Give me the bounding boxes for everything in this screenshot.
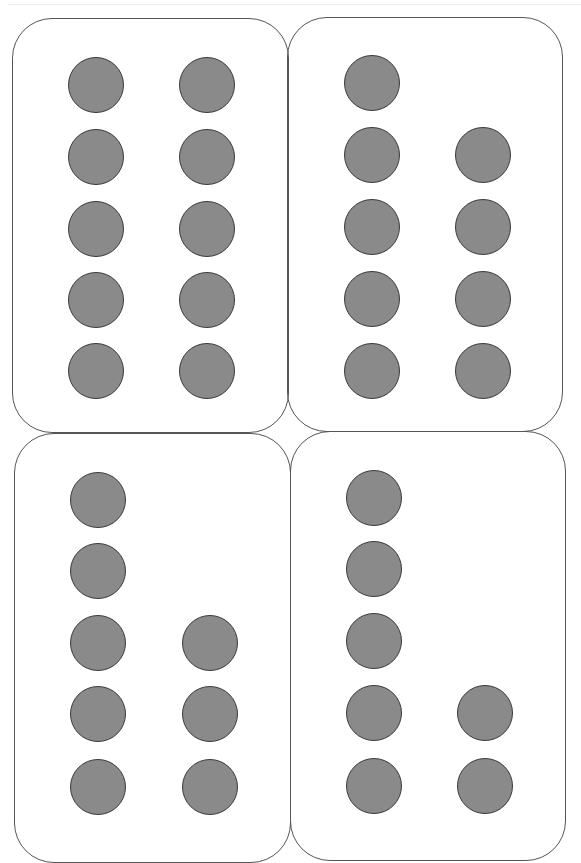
dot-circle bbox=[182, 759, 238, 815]
dot-circle bbox=[455, 271, 511, 327]
dot-circle bbox=[179, 343, 235, 399]
dot-circle bbox=[68, 129, 124, 185]
dot-card-9: 9 bbox=[287, 17, 563, 432]
dot-circle bbox=[344, 127, 400, 183]
dot-circle bbox=[346, 758, 402, 814]
dot-circle bbox=[70, 759, 126, 815]
dot-circle bbox=[70, 472, 126, 528]
dot-circle bbox=[182, 615, 238, 671]
dot-card-7: 7 bbox=[290, 431, 566, 861]
dot-circle bbox=[455, 343, 511, 399]
dot-circle bbox=[70, 686, 126, 742]
dot-circle bbox=[457, 758, 513, 814]
dot-circle bbox=[346, 613, 402, 669]
dot-circle bbox=[344, 55, 400, 111]
dot-circle bbox=[344, 199, 400, 255]
dot-circle bbox=[344, 343, 400, 399]
dot-circle bbox=[346, 541, 402, 597]
dot-circle bbox=[346, 470, 402, 526]
dot-circle bbox=[455, 127, 511, 183]
dot-circle bbox=[182, 686, 238, 742]
dot-card-8: 8 bbox=[14, 433, 291, 863]
dot-circle bbox=[455, 199, 511, 255]
dot-circle bbox=[68, 201, 124, 257]
dot-circle bbox=[179, 129, 235, 185]
top-rule-divider bbox=[8, 4, 581, 5]
dot-card-10: 10 bbox=[12, 18, 289, 433]
dot-circle bbox=[179, 201, 235, 257]
dot-circle bbox=[457, 685, 513, 741]
dot-circle bbox=[346, 685, 402, 741]
dot-circle bbox=[68, 272, 124, 328]
dot-circle bbox=[179, 57, 235, 113]
dot-circle bbox=[344, 271, 400, 327]
dot-circle bbox=[70, 615, 126, 671]
dot-circle bbox=[68, 57, 124, 113]
dot-circle bbox=[68, 343, 124, 399]
dot-circle bbox=[179, 272, 235, 328]
dot-circle bbox=[70, 543, 126, 599]
